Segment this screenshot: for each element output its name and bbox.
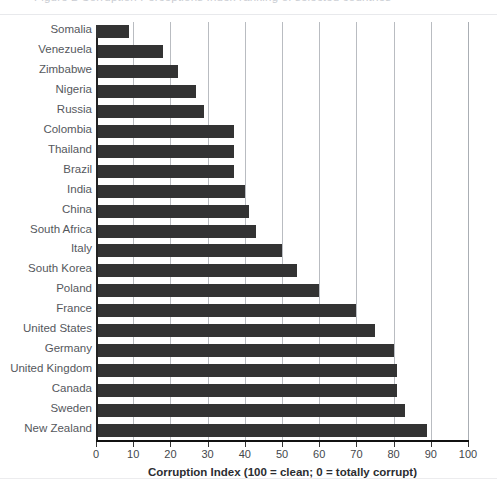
corruption-index-bar-chart: SomaliaVenezuelaZimbabweNigeriaRussiaCol…	[0, 16, 497, 490]
bar	[96, 284, 319, 297]
bar-row: Venezuela	[96, 45, 468, 58]
category-label: Brazil	[63, 163, 92, 175]
bar	[96, 424, 427, 437]
bar-row: India	[96, 185, 468, 198]
bar-row: Sweden	[96, 404, 468, 417]
category-label: Germany	[45, 342, 92, 354]
category-label: Venezuela	[38, 43, 92, 55]
x-tick-70	[356, 442, 357, 447]
clipped-title-strip: Figure 2 Corruption Perceptions Index ra…	[0, 0, 497, 8]
clipped-title-text: Figure 2 Corruption Perceptions Index ra…	[34, 0, 391, 3]
bar-row: Zimbabwe	[96, 65, 468, 78]
bar	[96, 344, 394, 357]
category-label: New Zealand	[24, 422, 92, 434]
x-tick-label-0: 0	[93, 448, 99, 460]
x-tick-label-80: 80	[387, 448, 399, 460]
x-tick-label-20: 20	[164, 448, 176, 460]
category-label: Italy	[71, 242, 92, 254]
bar-row: Nigeria	[96, 85, 468, 98]
category-label: South Korea	[28, 262, 92, 274]
category-label: China	[62, 203, 92, 215]
bar	[96, 225, 256, 238]
category-label: Poland	[56, 282, 92, 294]
category-label: South Africa	[30, 223, 92, 235]
bar	[96, 65, 178, 78]
bar	[96, 105, 204, 118]
x-tick-80	[394, 442, 395, 447]
bar-row: Italy	[96, 244, 468, 257]
x-tick-20	[170, 442, 171, 447]
x-tick-50	[282, 442, 283, 447]
bar-row: Germany	[96, 344, 468, 357]
bar-row: Poland	[96, 284, 468, 297]
category-label: Colombia	[43, 123, 92, 135]
x-tick-60	[319, 442, 320, 447]
x-tick-label-50: 50	[276, 448, 288, 460]
plot-area: SomaliaVenezuelaZimbabweNigeriaRussiaCol…	[96, 22, 468, 440]
bar	[96, 25, 129, 38]
x-tick-0	[96, 442, 97, 447]
category-label: Canada	[52, 382, 92, 394]
y-axis-line	[96, 38, 98, 440]
bar	[96, 364, 397, 377]
bar-row: Russia	[96, 105, 468, 118]
bar	[96, 165, 234, 178]
category-label: Sweden	[50, 402, 92, 414]
category-label: Russia	[57, 103, 92, 115]
bar	[96, 85, 196, 98]
bar-row: Thailand	[96, 145, 468, 158]
x-tick-label-100: 100	[459, 448, 477, 460]
x-tick-30	[208, 442, 209, 447]
x-tick-label-90: 90	[425, 448, 437, 460]
category-label: Zimbabwe	[39, 63, 92, 75]
x-tick-label-30: 30	[201, 448, 213, 460]
bar-row: Canada	[96, 384, 468, 397]
x-axis-title: Corruption Index (100 = clean; 0 = total…	[96, 466, 469, 478]
x-tick-100	[468, 442, 469, 447]
bar	[96, 205, 249, 218]
category-label: United States	[23, 322, 92, 334]
category-label: Thailand	[48, 143, 92, 155]
bar-row: South Africa	[96, 225, 468, 238]
bar	[96, 404, 405, 417]
bar-row: Colombia	[96, 125, 468, 138]
category-label: India	[67, 183, 92, 195]
x-tick-10	[133, 442, 134, 447]
x-tick-90	[431, 442, 432, 447]
category-label: United Kingdom	[10, 362, 92, 374]
bar-row: United Kingdom	[96, 364, 468, 377]
bar-row: France	[96, 304, 468, 317]
bar-row: China	[96, 205, 468, 218]
x-tick-label-70: 70	[350, 448, 362, 460]
bar	[96, 304, 356, 317]
bar	[96, 185, 245, 198]
x-tick-label-10: 10	[127, 448, 139, 460]
bar	[96, 264, 297, 277]
x-tick-40	[245, 442, 246, 447]
category-label: Somalia	[50, 23, 92, 35]
x-tick-label-60: 60	[313, 448, 325, 460]
category-label: Nigeria	[56, 83, 92, 95]
bar-row: New Zealand	[96, 424, 468, 437]
bar-row: South Korea	[96, 264, 468, 277]
bar	[96, 244, 282, 257]
top-divider	[0, 14, 497, 15]
bar	[96, 324, 375, 337]
bar	[96, 45, 163, 58]
bar	[96, 125, 234, 138]
category-label: France	[56, 302, 92, 314]
bar	[96, 145, 234, 158]
bar-row: United States	[96, 324, 468, 337]
bar-row: Brazil	[96, 165, 468, 178]
bar	[96, 384, 397, 397]
x-tick-label-40: 40	[239, 448, 251, 460]
bottom-divider	[0, 478, 497, 479]
bar-row: Somalia	[96, 25, 468, 38]
gridline-100	[468, 22, 469, 440]
